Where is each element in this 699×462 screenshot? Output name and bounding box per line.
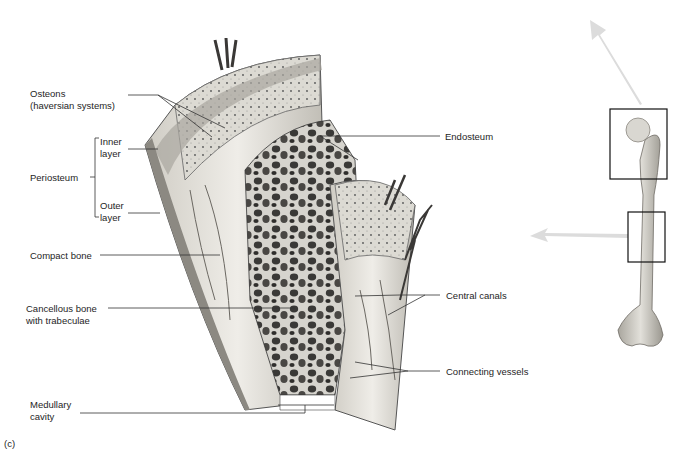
label-osteons: Osteons (haversian systems) — [30, 88, 115, 112]
label-medullary-cavity: Medullary cavity — [30, 399, 71, 423]
label-periosteum: Periosteum — [30, 172, 78, 184]
label-inner-layer: Inner layer — [100, 136, 122, 160]
label-compact-bone: Compact bone — [30, 250, 92, 262]
bone-cross-section — [145, 38, 432, 430]
zoom-arrows — [530, 20, 642, 242]
femur-illustration — [610, 109, 667, 346]
label-outer-layer: Outer layer — [100, 200, 124, 224]
label-central-canals: Central canals — [446, 290, 507, 302]
label-cancellous-bone: Cancellous bone with trabeculae — [26, 303, 97, 327]
bone-illustration — [0, 0, 699, 462]
panel-letter: (c) — [4, 438, 15, 450]
label-endosteum: Endosteum — [445, 131, 493, 143]
label-connecting-vessels: Connecting vessels — [446, 366, 528, 378]
